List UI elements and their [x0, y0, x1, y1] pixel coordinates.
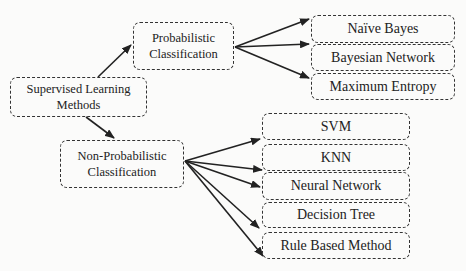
node-svm: SVM	[262, 113, 410, 140]
edge-prob-to-bayesian-network	[235, 44, 309, 47]
node-rule-based-method: Rule Based Method	[262, 232, 410, 259]
node-label-line1: Supervised Learning	[27, 81, 131, 97]
edge-nonprob-to-svm	[185, 139, 260, 161]
node-label: Neural Network	[291, 178, 382, 194]
node-non-probabilistic-classification: Non-Probabilistic Classification	[60, 140, 184, 188]
node-label: SVM	[321, 119, 351, 135]
node-label: Decision Tree	[297, 207, 375, 223]
node-decision-tree: Decision Tree	[262, 202, 410, 228]
node-label: Naïve Bayes	[347, 21, 418, 37]
edge-root-to-nonprobabilistic	[86, 117, 114, 138]
node-label: Maximum Entropy	[330, 79, 437, 95]
edge-prob-to-maximum-entropy	[235, 47, 309, 78]
node-label-line2: Classification	[149, 46, 218, 62]
edge-nonprob-to-decision-tree	[185, 161, 259, 228]
edge-prob-to-naive-bayes	[235, 19, 309, 47]
node-probabilistic-classification: Probabilistic Classification	[133, 22, 234, 70]
node-bayesian-network: Bayesian Network	[311, 44, 455, 71]
node-label-line1: Non-Probabilistic	[78, 148, 167, 164]
node-label: Rule Based Method	[280, 238, 391, 254]
node-label-line2: Classification	[78, 164, 167, 180]
node-knn: KNN	[262, 144, 410, 171]
node-label: KNN	[321, 150, 351, 166]
node-label-line2: Methods	[27, 97, 131, 113]
node-maximum-entropy: Maximum Entropy	[311, 73, 455, 100]
node-label: Bayesian Network	[331, 50, 435, 66]
edge-root-to-probabilistic	[98, 45, 131, 77]
node-neural-network: Neural Network	[262, 172, 410, 200]
node-supervised-learning-methods: Supervised Learning Methods	[10, 77, 147, 117]
node-naive-bayes: Naïve Bayes	[311, 15, 455, 43]
node-label-line1: Probabilistic	[149, 30, 218, 46]
